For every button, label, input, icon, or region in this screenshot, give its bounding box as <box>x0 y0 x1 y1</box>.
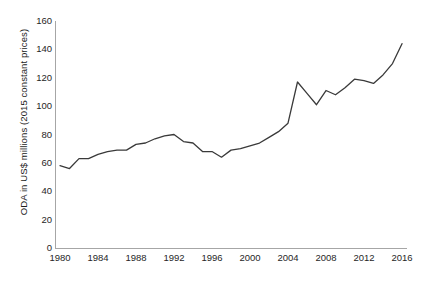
plot-area <box>0 0 428 291</box>
chart-container: ODA in US$ millions (2015 constant price… <box>0 0 428 291</box>
data-line-oda <box>60 44 402 169</box>
